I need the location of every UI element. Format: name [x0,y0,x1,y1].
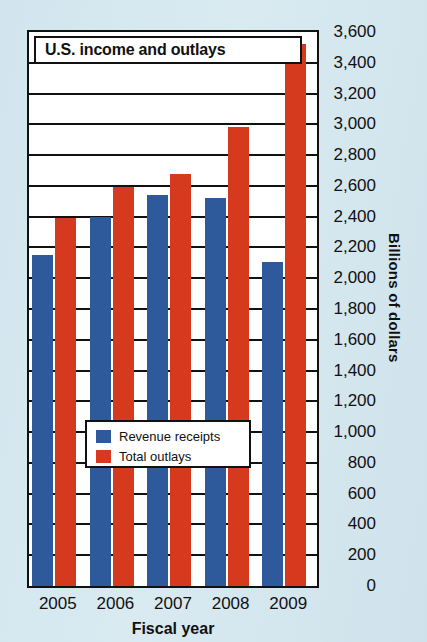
x-tick-label-2009: 2009 [269,594,307,614]
y-tick-label: 400 [348,514,376,534]
bar-2009-total-outlays [285,44,306,586]
y-tick-label: 2,400 [333,207,376,227]
y-tick-label: 1,200 [333,391,376,411]
y-axis-tick-labels: 3,6003,4003,2003,0002,8002,6002,4002,200… [324,0,382,642]
bar-2007-revenue-receipts [147,195,168,586]
x-tick-label-2005: 2005 [39,594,77,614]
chart-title-box: U.S. income and outlays [34,36,302,64]
legend-swatch-icon-outlays [96,450,111,463]
chart-plot-area [27,30,319,588]
bar-2006-revenue-receipts [90,217,111,586]
y-tick-label: 0 [367,576,376,596]
legend-swatch-icon-revenue [96,430,111,443]
y-tick-label: 2,200 [333,237,376,257]
y-tick-label: 1,400 [333,361,376,381]
y-tick-label: 1,000 [333,422,376,442]
x-tick-label-2006: 2006 [96,594,134,614]
y-tick-label: 3,200 [333,84,376,104]
x-axis-tick-labels: 20052006200720082009 [27,594,319,618]
bar-group-2005 [29,32,87,586]
x-tick-label-2008: 2008 [212,594,250,614]
y-tick-label: 2,600 [333,176,376,196]
bar-2008-revenue-receipts [205,198,226,586]
legend-label-revenue: Revenue receipts [119,429,220,444]
y-tick-label: 3,600 [333,22,376,42]
y-tick-label: 3,000 [333,114,376,134]
y-tick-label: 1,800 [333,299,376,319]
y-tick-label: 2,800 [333,145,376,165]
y-tick-label: 1,600 [333,330,376,350]
page-background: U.S. income and outlays Revenue receipts… [0,0,427,642]
y-tick-label: 800 [348,453,376,473]
y-axis-title: Billions of dollars [386,233,403,363]
chart-legend: Revenue receipts Total outlays [85,420,251,468]
x-tick-label-2007: 2007 [154,594,192,614]
bars-layer [29,32,317,586]
bar-2008-total-outlays [228,127,249,586]
bar-2006-total-outlays [113,187,134,586]
bar-group-2007 [144,32,202,586]
bar-group-2009 [259,32,317,586]
legend-item-total-outlays: Total outlays [96,446,249,466]
legend-item-revenue-receipts: Revenue receipts [96,426,249,446]
x-axis-title: Fiscal year [27,620,319,638]
bar-2007-total-outlays [170,174,191,586]
bar-2009-revenue-receipts [262,262,283,586]
bar-group-2006 [87,32,145,586]
legend-label-outlays: Total outlays [119,449,191,464]
y-tick-label: 600 [348,484,376,504]
bar-group-2008 [202,32,260,586]
bar-2005-revenue-receipts [32,255,53,586]
y-tick-label: 2,000 [333,268,376,288]
chart-title: U.S. income and outlays [36,41,225,59]
y-tick-label: 3,400 [333,53,376,73]
y-tick-label: 200 [348,545,376,565]
bar-2005-total-outlays [55,218,76,586]
